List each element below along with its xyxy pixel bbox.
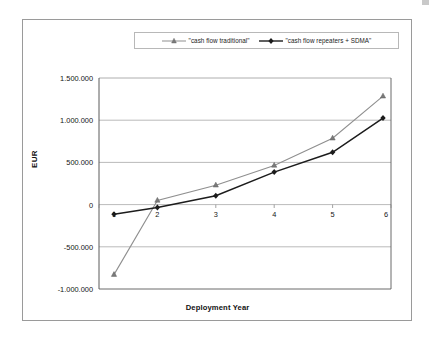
y-tick-label: -1.000.000 [23,285,93,294]
series-cash-flow-traditional [111,93,385,276]
x-tick-label: 6 [384,210,388,219]
x-tick-label: 2 [155,210,159,219]
x-tick-label: 3 [214,210,218,219]
x-tick-label: 5 [331,210,335,219]
chart-legend: "cash flow traditional" "cash flow repea… [134,32,399,49]
legend-item-cash-flow-repeaters-sdma: "cash flow repeaters + SDMA" [259,37,372,45]
x-tick-label: 1 [112,210,116,219]
y-tick-label: 1.500.000 [23,74,93,83]
cash-flow-line-chart [23,20,411,320]
legend-item-cash-flow-traditional: "cash flow traditional" [162,37,250,45]
y-axis-title: EUR [30,150,39,168]
legend-label: "cash flow traditional" [189,37,250,44]
y-tick-label: 0 [23,200,93,209]
scan-artifact [422,0,429,5]
legend-label: "cash flow repeaters + SDMA" [286,37,372,44]
series-cash-flow-repeaters-sdma [111,115,385,217]
x-axis-ticks [99,205,391,208]
y-tick-label: 1.000.000 [23,116,93,125]
x-tick-label: 4 [272,210,276,219]
y-tick-label: -500.000 [23,242,93,251]
legend-marker-triangle-icon [162,37,186,45]
legend-marker-diamond-icon [259,37,283,45]
chart-frame: 1.500.000 1.000.000 500.000 0 -500.000 -… [22,19,412,321]
x-axis-title: Deployment Year [0,303,435,312]
